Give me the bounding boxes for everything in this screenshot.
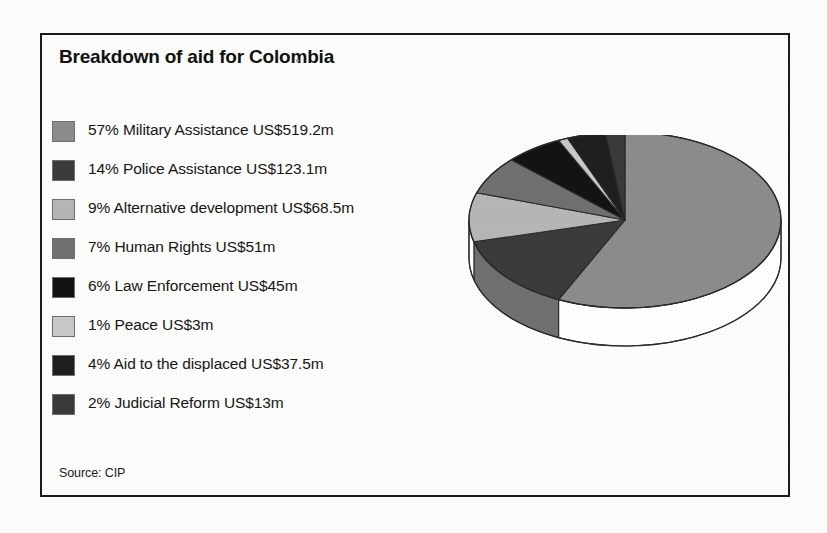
legend-item: 9% Alternative development US$68.5m <box>52 196 442 235</box>
legend-item-label: 57% Military Assistance US$519.2m <box>88 119 334 141</box>
title-speck-artifact <box>296 59 299 62</box>
legend-item-label: 2% Judicial Reform US$13m <box>88 392 284 414</box>
legend-item: 57% Military Assistance US$519.2m <box>52 118 442 157</box>
slice-military-swatch <box>52 121 75 142</box>
slice-humanrights-swatch <box>52 238 75 259</box>
legend: 57% Military Assistance US$519.2m14% Pol… <box>52 118 442 430</box>
page-title: Breakdown of aid for Colombia <box>59 46 334 68</box>
legend-item: 7% Human Rights US$51m <box>52 235 442 274</box>
chart-page: Breakdown of aid for Colombia 57% Milita… <box>0 0 827 533</box>
slice-displaced-swatch <box>52 355 75 376</box>
slice-lawenf-swatch <box>52 277 75 298</box>
legend-item: 4% Aid to the displaced US$37.5m <box>52 352 442 391</box>
legend-item-label: 7% Human Rights US$51m <box>88 236 275 258</box>
legend-item-label: 4% Aid to the displaced US$37.5m <box>88 353 323 375</box>
slice-judicial-swatch <box>52 394 75 415</box>
pie-chart <box>450 135 795 350</box>
legend-item: 1% Peace US$3m <box>52 313 442 352</box>
pie-chart-svg <box>450 135 795 350</box>
legend-item-label: 14% Police Assistance US$123.1m <box>88 158 327 180</box>
slice-peace-swatch <box>52 316 75 337</box>
legend-item: 14% Police Assistance US$123.1m <box>52 157 442 196</box>
legend-item: 2% Judicial Reform US$13m <box>52 391 442 430</box>
source-note: Source: CIP <box>59 466 125 480</box>
legend-item-label: 1% Peace US$3m <box>88 314 213 336</box>
legend-item-label: 6% Law Enforcement US$45m <box>88 275 297 297</box>
slice-police-swatch <box>52 160 75 181</box>
legend-item: 6% Law Enforcement US$45m <box>52 274 442 313</box>
legend-item-label: 9% Alternative development US$68.5m <box>88 197 354 219</box>
slice-altdev-swatch <box>52 199 75 220</box>
